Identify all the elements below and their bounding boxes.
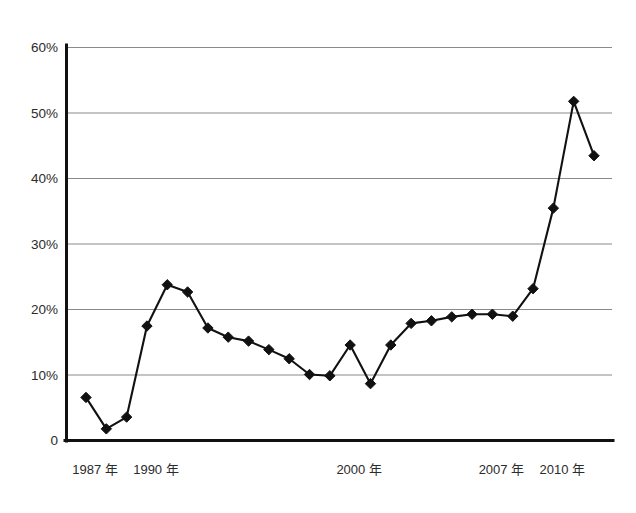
data-point-marker [426, 316, 436, 326]
x-axis-tick-labels: 1987 年1990 年2000 年2007 年2010 年 [72, 462, 585, 477]
y-axis-tick-label: 60% [31, 40, 58, 55]
data-point-marker [121, 412, 131, 422]
data-point-marker [447, 312, 457, 322]
y-axis-tick-label: 20% [31, 302, 58, 317]
chart-container: 60%50%40%30%20%10%0 1987 年1990 年2000 年20… [0, 0, 636, 513]
data-point-marker [142, 321, 152, 331]
x-axis-tick-label: 2007 年 [479, 462, 525, 477]
x-axis-tick-label: 1987 年 [72, 462, 118, 477]
x-axis-tick-label: 2000 年 [336, 462, 382, 477]
data-point-marker [365, 378, 375, 388]
data-point-marker [243, 336, 253, 346]
data-point-marker [568, 96, 578, 106]
y-axis-tick-label: 0 [50, 433, 58, 448]
data-point-marker [81, 392, 91, 402]
data-point-marker [162, 280, 172, 290]
y-axis-tick-labels: 60%50%40%30%20%10%0 [31, 40, 58, 448]
data-point-marker [182, 287, 192, 297]
data-point-marker [101, 424, 111, 434]
y-axis-tick-label: 50% [31, 106, 58, 121]
y-axis-tick-label: 30% [31, 237, 58, 252]
y-axis-tick-label: 10% [31, 368, 58, 383]
series-line-path [86, 101, 594, 429]
x-axis-tick-label: 1990 年 [133, 462, 179, 477]
data-point-marker [589, 151, 599, 161]
data-point-marker [203, 323, 213, 333]
line-chart: 60%50%40%30%20%10%0 1987 年1990 年2000 年20… [0, 0, 636, 513]
data-point-marker [548, 203, 558, 213]
y-axis-tick-label: 40% [31, 171, 58, 186]
data-point-marker [487, 309, 497, 319]
data-point-marker [264, 344, 274, 354]
data-point-marker [467, 309, 477, 319]
data-point-markers [81, 96, 599, 434]
x-axis-tick-label: 2010 年 [540, 462, 586, 477]
data-point-marker [223, 332, 233, 342]
